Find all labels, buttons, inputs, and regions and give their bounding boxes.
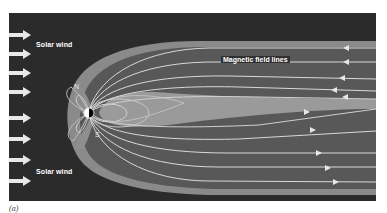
solar-wind-arrow-icon bbox=[9, 68, 31, 78]
south-pole-label: S bbox=[95, 131, 100, 138]
solar-wind-arrow-icon bbox=[9, 30, 31, 40]
solar-wind-label-bottom: Solar wind bbox=[36, 168, 72, 175]
magnetic-field-lines-label: Magnetic field lines bbox=[221, 56, 290, 63]
solar-wind-label-top: Solar wind bbox=[36, 41, 72, 48]
solar-wind-arrow-icon bbox=[9, 155, 31, 165]
magnetosphere-diagram: Solar wind Solar wind Magnetic field lin… bbox=[9, 13, 376, 201]
solar-wind-arrow-icon bbox=[9, 87, 31, 97]
solar-wind-arrows bbox=[9, 30, 31, 186]
solar-wind-arrow-icon bbox=[9, 49, 31, 59]
solar-wind-arrow-icon bbox=[9, 134, 31, 144]
figure-caption: (a) bbox=[9, 204, 18, 213]
solar-wind-arrow-icon bbox=[9, 113, 31, 123]
north-pole-label: N bbox=[74, 83, 79, 90]
earth-icon bbox=[84, 108, 94, 118]
solar-wind-arrow-icon bbox=[9, 176, 31, 186]
